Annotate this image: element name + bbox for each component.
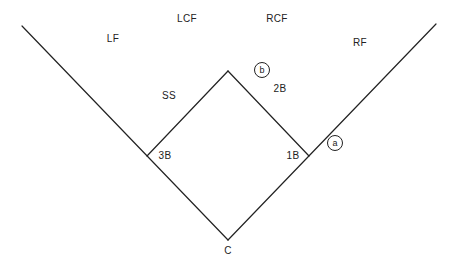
label-right-field: RF — [353, 37, 367, 48]
label-first-base: 1B — [287, 150, 300, 161]
label-shortstop: SS — [162, 90, 176, 101]
left-foul-line — [22, 26, 228, 240]
right-foul-line — [228, 24, 436, 240]
baseball-field-diagram — [0, 0, 457, 264]
label-right-center-field: RCF — [266, 13, 287, 24]
diamond-third-to-second — [147, 71, 228, 156]
marker-a: a — [327, 135, 343, 151]
label-catcher: C — [224, 245, 232, 256]
label-third-base: 3B — [159, 150, 172, 161]
diamond-second-to-first — [228, 71, 309, 156]
marker-b: b — [254, 62, 270, 78]
label-left-center-field: LCF — [177, 13, 197, 24]
label-second-base: 2B — [274, 83, 287, 94]
label-left-field: LF — [107, 33, 119, 44]
